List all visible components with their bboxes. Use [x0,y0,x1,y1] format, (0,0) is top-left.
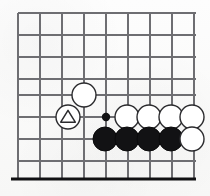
stones-layer[interactable] [56,83,204,151]
board-grid-lines [18,13,196,179]
stone-white-white-row-1[interactable] [115,105,139,129]
stone-black-black-row-1[interactable] [93,127,117,151]
point-marker-dot-icon [102,113,110,121]
stone-black-black-row-3[interactable] [137,127,161,151]
stone-white-white-row-2[interactable] [137,105,161,129]
stone-white-white-upper-approach[interactable] [72,83,96,107]
stone-white-white-row-4[interactable] [180,105,204,129]
stone-white-white-triangle-marked[interactable] [56,105,80,129]
go-board-diagram [0,0,210,196]
stone-black-black-row-2[interactable] [115,127,139,151]
stone-white-white-row-5[interactable] [180,127,204,151]
go-board-canvas [0,0,210,196]
